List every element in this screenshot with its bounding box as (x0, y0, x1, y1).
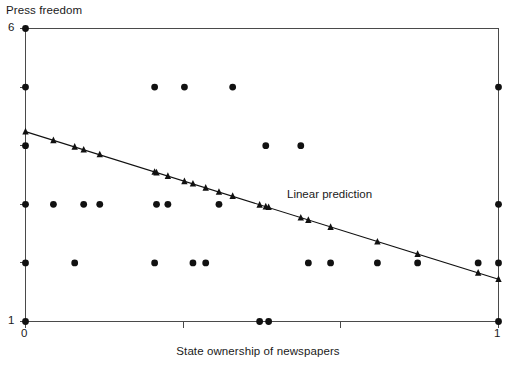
scatter-points (22, 25, 502, 325)
axis-ticks (20, 29, 499, 328)
axis-frame (26, 29, 499, 322)
plot-area (0, 0, 516, 370)
linear-prediction-line (26, 132, 499, 280)
chart-figure: Press freedom 6 1 0 1 State ownership of… (0, 0, 516, 370)
